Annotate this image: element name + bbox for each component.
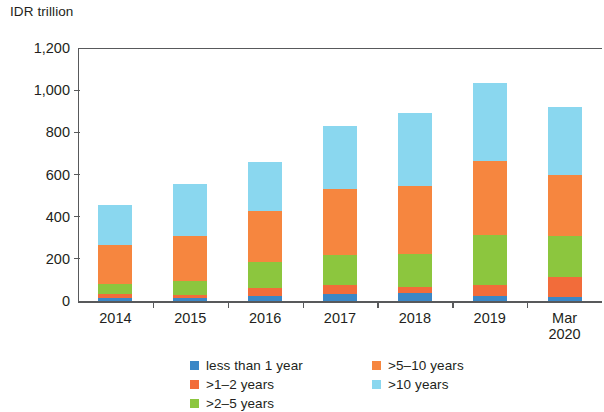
bar-2019 <box>473 83 507 301</box>
y-axis-tick-label: 0 <box>6 293 70 309</box>
x-axis-tick <box>452 302 453 308</box>
bar-2018 <box>398 113 432 301</box>
bar-segment <box>248 262 282 288</box>
stacked-bar-chart: IDR trillion 02004006008001,0001,200 201… <box>0 0 604 412</box>
bar-segment <box>398 293 432 301</box>
legend-color-swatch <box>190 399 199 408</box>
x-axis-line <box>78 301 602 303</box>
bar-segment <box>548 107 582 174</box>
bar-segment <box>248 288 282 295</box>
bar-segment <box>173 236 207 281</box>
bar-segment <box>173 281 207 295</box>
bar-segment <box>248 296 282 301</box>
x-axis-tick <box>228 302 229 308</box>
bar-segment <box>398 186 432 253</box>
x-axis-tick <box>527 302 528 308</box>
bar-segment <box>473 296 507 301</box>
bar-segment <box>473 161 507 235</box>
y-axis-unit-caption: IDR trillion <box>10 4 73 19</box>
legend-color-swatch <box>190 380 199 389</box>
legend-label: >10 years <box>388 377 449 392</box>
x-axis-tick-label: 2018 <box>399 310 431 326</box>
x-axis-tick <box>377 302 378 308</box>
bar-segment <box>548 277 582 297</box>
x-axis-tick <box>303 302 304 308</box>
x-axis-tick-label: 2015 <box>174 310 206 326</box>
legend-label: >5–10 years <box>388 358 464 373</box>
legend-label: >2–5 years <box>206 396 274 411</box>
x-axis-tick-label: 2017 <box>324 310 356 326</box>
legend-item[interactable]: less than 1 year <box>190 358 303 373</box>
bar-segment <box>323 189 357 254</box>
legend-item[interactable]: >10 years <box>372 377 449 392</box>
bar-segment <box>398 254 432 288</box>
legend-color-swatch <box>372 380 381 389</box>
legend-item[interactable]: >2–5 years <box>190 396 274 411</box>
legend-item[interactable]: >5–10 years <box>372 358 464 373</box>
bar-segment <box>548 297 582 301</box>
bar-segment <box>248 162 282 212</box>
legend-color-swatch <box>190 361 199 370</box>
y-axis-tick-label: 400 <box>6 209 70 225</box>
bar-segment <box>323 126 357 189</box>
y-axis-tick-label: 200 <box>6 251 70 267</box>
y-axis-tick-label: 1,200 <box>6 40 70 56</box>
legend-item[interactable]: >1–2 years <box>190 377 274 392</box>
bar-segment <box>548 236 582 277</box>
legend-color-swatch <box>372 361 381 370</box>
chart-legend: less than 1 year>1–2 years>2–5 years>5–1… <box>190 358 590 412</box>
bar-segment <box>473 235 507 286</box>
legend-label: >1–2 years <box>206 377 274 392</box>
bar-segment <box>473 285 507 296</box>
x-axis-tick <box>153 302 154 308</box>
bar-segment <box>248 211 282 262</box>
bar-segment <box>323 255 357 286</box>
bar-2015 <box>173 184 207 301</box>
x-axis-tick-label: Mar 2020 <box>548 310 580 342</box>
bar-segment <box>98 284 132 293</box>
bar-segment <box>173 298 207 301</box>
bar-segment <box>98 298 132 301</box>
y-axis-tick-label: 1,000 <box>6 82 70 98</box>
y-axis-tick-label: 800 <box>6 124 70 140</box>
bar-segment <box>323 294 357 301</box>
bars-layer <box>78 48 602 301</box>
bar-segment <box>548 175 582 236</box>
bar-mar-2020 <box>548 107 582 301</box>
bar-segment <box>473 83 507 161</box>
x-axis-tick-label: 2019 <box>474 310 506 326</box>
legend-label: less than 1 year <box>206 358 303 373</box>
bar-2014 <box>98 205 132 301</box>
x-axis-tick-label: 2016 <box>249 310 281 326</box>
y-axis-tick-label: 600 <box>6 167 70 183</box>
bar-segment <box>323 285 357 293</box>
bar-segment <box>173 184 207 236</box>
bar-segment <box>98 205 132 245</box>
bar-segment <box>398 113 432 186</box>
x-axis-tick-label: 2014 <box>99 310 131 326</box>
bar-2016 <box>248 162 282 301</box>
bar-segment <box>98 245 132 284</box>
bar-2017 <box>323 126 357 301</box>
